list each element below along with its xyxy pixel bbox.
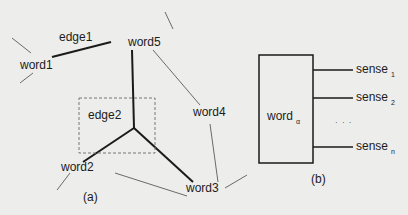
sense-text: sense [356, 139, 388, 153]
thin-edge-line [225, 175, 247, 188]
word-text: word [267, 109, 293, 123]
thin-edge-line [12, 38, 31, 53]
word5-label: word5 [128, 36, 161, 48]
sense-1-label: sense1 [356, 63, 395, 78]
panel-a-caption: (a) [83, 191, 98, 203]
thin-edge-line [210, 124, 218, 182]
thin-edge-line [20, 73, 33, 83]
word2-label: word2 [61, 161, 94, 173]
edge2-line-word2 [83, 128, 134, 162]
sense-text: sense [356, 90, 388, 104]
edge2-label: edge2 [88, 109, 121, 121]
sense-subscript: 1 [391, 71, 395, 78]
thin-edge-line [57, 173, 70, 190]
sense-subscript: n [391, 148, 395, 155]
word1-label: word1 [20, 59, 53, 71]
word3-label: word3 [186, 182, 219, 194]
edge2-line-word5 [132, 50, 134, 128]
thin-edge-line [153, 50, 200, 105]
edge2-dashed-box [79, 98, 155, 153]
edge1-label: edge1 [59, 31, 92, 43]
sense-2-label: sense2 [356, 91, 395, 106]
edge1-line [52, 42, 111, 57]
thin-edge-line [115, 173, 187, 196]
word4-label: word4 [193, 106, 226, 118]
sense-n-label: sensen [356, 140, 395, 155]
sense-subscript: 2 [391, 99, 395, 106]
word-alpha-label: wordα [267, 110, 300, 125]
ellipsis: · · · [335, 119, 352, 127]
panel-b-caption: (b) [311, 173, 326, 185]
sense-text: sense [356, 62, 388, 76]
word-subscript: α [296, 118, 300, 125]
edge2-line-word3 [134, 128, 193, 182]
thin-edge-line [165, 12, 173, 29]
